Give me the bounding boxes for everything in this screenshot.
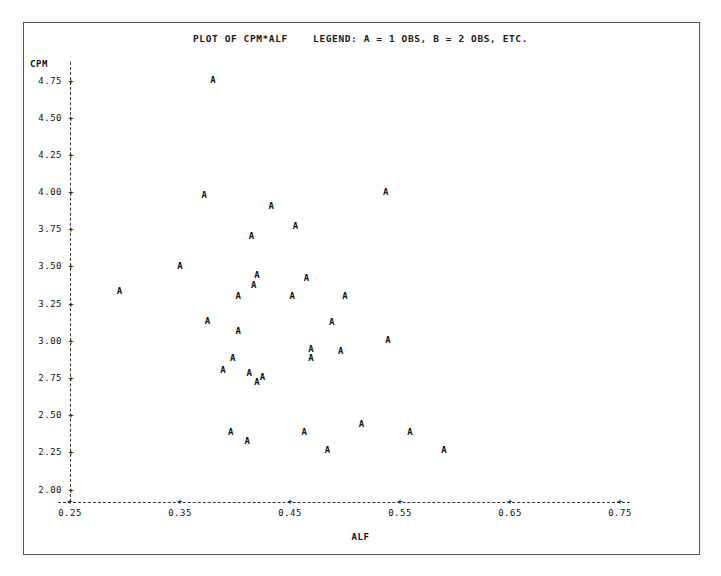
scatter-point: A <box>405 428 415 437</box>
scatter-point: A <box>228 354 238 363</box>
scatter-point: A <box>306 354 316 363</box>
scatter-point: A <box>302 274 312 283</box>
scatter-point: A <box>322 446 332 455</box>
scatter-point: A <box>244 369 254 378</box>
plot-page: PLOT OF CPM*ALF LEGEND: A = 1 OBS, B = 2… <box>0 0 721 576</box>
scatter-point: A <box>199 191 209 200</box>
scatter-point: A <box>357 420 367 429</box>
scatter-point: A <box>439 446 449 455</box>
scatter-point: A <box>266 202 276 211</box>
scatter-point: A <box>287 292 297 301</box>
scatter-point: A <box>252 271 262 280</box>
scatter-point: A <box>233 327 243 336</box>
scatter-points-layer: AAAAAAAAAAAAAAAAAAAAAAAAAAAAAAAAA <box>0 0 721 576</box>
scatter-point: A <box>381 188 391 197</box>
scatter-point: A <box>175 262 185 271</box>
scatter-point: A <box>247 232 257 241</box>
scatter-point: A <box>226 428 236 437</box>
scatter-point: A <box>291 222 301 231</box>
scatter-point: A <box>115 287 125 296</box>
scatter-point: A <box>242 437 252 446</box>
scatter-point: A <box>218 366 228 375</box>
scatter-point: A <box>249 281 259 290</box>
scatter-point: A <box>252 378 262 387</box>
scatter-point: A <box>203 317 213 326</box>
scatter-point: A <box>208 76 218 85</box>
scatter-point: A <box>299 428 309 437</box>
scatter-point: A <box>383 336 393 345</box>
scatter-point: A <box>233 292 243 301</box>
scatter-point: A <box>340 292 350 301</box>
scatter-point: A <box>336 347 346 356</box>
scatter-point: A <box>327 318 337 327</box>
